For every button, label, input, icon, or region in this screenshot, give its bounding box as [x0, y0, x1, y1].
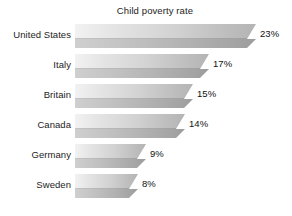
bar [75, 54, 209, 80]
bar [75, 144, 146, 170]
bar-row: Britain15% [0, 82, 292, 112]
bar-front-face [75, 189, 138, 198]
bar-seam [75, 188, 129, 189]
bar-top-face [75, 84, 193, 99]
chart-title: Child poverty rate [0, 5, 292, 17]
bar-value-label: 9% [150, 148, 164, 160]
bar-value-label: 17% [213, 58, 232, 70]
bar-value-label: 15% [197, 88, 216, 100]
bar-seam [75, 68, 200, 69]
category-label: Sweden [0, 179, 71, 191]
bar-row: Italy17% [0, 52, 292, 82]
bar [75, 24, 256, 50]
bar-front-face [75, 69, 209, 78]
bar [75, 174, 138, 200]
bar-top-face [75, 24, 256, 39]
bar-front-face [75, 99, 193, 108]
bar-top-face [75, 174, 138, 189]
bar-seam [75, 128, 176, 129]
bar-front-face [75, 159, 146, 168]
plot-area: United States23%Italy17%Britain15%Canada… [0, 20, 292, 216]
bar-front-face [75, 39, 256, 48]
bar-row: Germany9% [0, 142, 292, 172]
category-label: United States [0, 29, 71, 41]
bar-value-label: 8% [142, 178, 156, 190]
category-label: Britain [0, 89, 71, 101]
bar-seam [75, 98, 184, 99]
bar-top-face [75, 144, 146, 159]
bar-front-face [75, 129, 185, 138]
category-label: Canada [0, 119, 71, 131]
category-label: Germany [0, 149, 71, 161]
bar [75, 114, 185, 140]
bar-row: Canada14% [0, 112, 292, 142]
bar-top-face [75, 54, 209, 69]
bar-value-label: 23% [260, 28, 279, 40]
bar-row: United States23% [0, 22, 292, 52]
bar-seam [75, 38, 247, 39]
bar-seam [75, 158, 137, 159]
bar-top-face [75, 114, 185, 129]
bar [75, 84, 193, 110]
bar-value-label: 14% [189, 118, 208, 130]
category-label: Italy [0, 59, 71, 71]
chart-container: Child poverty rate United States23%Italy… [0, 0, 292, 216]
bar-row: Sweden8% [0, 172, 292, 202]
